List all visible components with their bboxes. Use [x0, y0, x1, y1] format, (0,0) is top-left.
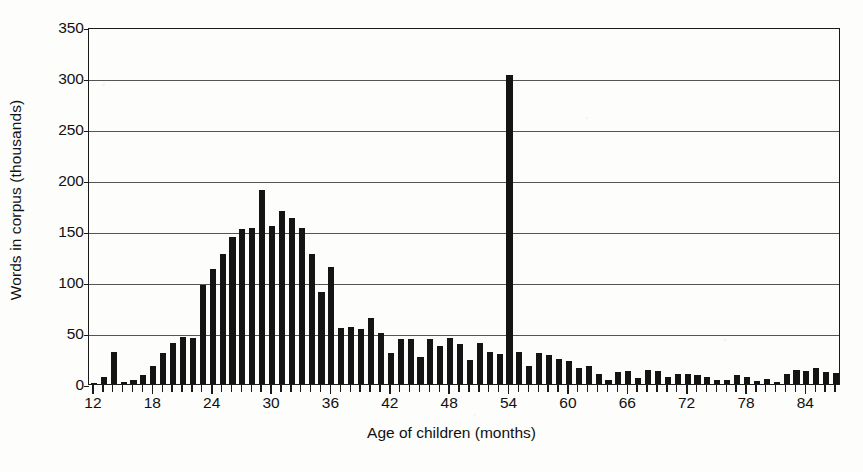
x-axis-tick-mark: [132, 385, 133, 392]
x-axis-tick-mark: [686, 385, 688, 394]
bar: [417, 357, 423, 384]
bar: [200, 285, 206, 384]
x-axis-tick-mark: [330, 385, 332, 394]
bar: [536, 353, 542, 384]
bar: [793, 370, 799, 384]
x-axis-tick-mark: [587, 385, 588, 392]
bar: [675, 374, 681, 384]
bar: [556, 359, 562, 385]
x-axis-tick-mark: [419, 385, 420, 392]
y-axis-tick-label: 250: [32, 122, 84, 138]
bar: [774, 382, 780, 384]
x-axis-tick-label: 54: [500, 394, 517, 412]
x-axis-tick-mark: [775, 385, 776, 392]
x-axis-tick-mark: [745, 385, 747, 394]
x-axis-tick-label: 66: [619, 394, 636, 412]
x-axis-tick-mark: [567, 385, 569, 394]
x-axis-tick-mark: [795, 385, 796, 392]
bar: [279, 211, 285, 384]
chart-figure: Words in corpus (thousands) 050100150200…: [0, 0, 863, 472]
plot-area: [88, 28, 840, 385]
bar: [91, 383, 97, 384]
x-axis-tick-mark: [448, 385, 450, 394]
bar: [368, 318, 374, 384]
bar: [803, 371, 809, 384]
x-axis-tick-marks: [88, 385, 840, 394]
x-axis-tick-mark: [468, 385, 469, 392]
bar: [833, 373, 839, 384]
x-axis-tick-mark: [379, 385, 380, 392]
x-axis-tick-mark: [231, 385, 232, 392]
x-axis-tick-mark: [824, 385, 825, 392]
bar: [150, 366, 156, 384]
x-axis-tick-mark: [696, 385, 697, 392]
bar: [358, 329, 364, 384]
x-axis-tick-mark: [458, 385, 459, 392]
bar: [605, 380, 611, 384]
bar: [566, 361, 572, 384]
x-axis-tick-mark: [726, 385, 727, 392]
bar: [655, 371, 661, 384]
bar: [318, 292, 324, 384]
bar: [140, 375, 146, 384]
bar: [437, 346, 443, 384]
bar: [111, 352, 117, 384]
bar: [487, 352, 493, 384]
bar: [249, 228, 255, 384]
x-axis-tick-mark: [765, 385, 766, 392]
bar: [239, 229, 245, 384]
x-axis-tick-mark: [834, 385, 835, 392]
bar: [704, 377, 710, 384]
x-axis-tick-mark: [528, 385, 529, 392]
x-axis-tick-mark: [488, 385, 489, 392]
bar: [586, 366, 592, 384]
y-axis-tick-label: 50: [32, 326, 84, 342]
x-axis-tick-mark: [221, 385, 222, 392]
y-axis-title-text: Words in corpus (thousands): [7, 100, 25, 301]
bar: [625, 371, 631, 384]
bar: [269, 226, 275, 384]
bar-series: [89, 29, 839, 384]
x-axis-tick-mark: [320, 385, 321, 392]
bar: [526, 366, 532, 384]
bar: [259, 190, 265, 384]
x-axis-tick-mark: [785, 385, 786, 392]
bar: [467, 360, 473, 384]
bar: [160, 353, 166, 384]
x-axis-tick-mark: [646, 385, 647, 392]
bar: [299, 228, 305, 384]
bar: [121, 382, 127, 384]
x-axis-tick-label: 48: [441, 394, 458, 412]
bar: [170, 343, 176, 384]
x-axis-tick-mark: [102, 385, 103, 392]
y-axis-tick-mark: [84, 284, 89, 285]
bar: [635, 378, 641, 384]
x-axis-title-text: Age of children (months): [367, 424, 536, 441]
bar: [309, 254, 315, 384]
y-axis-tick-mark: [84, 182, 89, 183]
bar: [388, 353, 394, 384]
bar: [447, 338, 453, 384]
bar: [645, 370, 651, 384]
bar: [408, 339, 414, 384]
x-axis-title: Age of children (months): [0, 424, 863, 442]
bar: [378, 333, 384, 384]
x-axis-tick-mark: [241, 385, 242, 392]
x-axis-tick-mark: [181, 385, 182, 392]
x-axis-tick-mark: [409, 385, 410, 392]
bar: [813, 368, 819, 384]
bar: [823, 372, 829, 384]
bar: [546, 355, 552, 384]
x-axis-tick-label: 78: [737, 394, 754, 412]
x-axis-tick-mark: [538, 385, 539, 392]
bar: [130, 380, 136, 384]
x-axis-tick-mark: [260, 385, 261, 392]
x-axis-tick-mark: [211, 385, 213, 394]
bar: [506, 75, 512, 384]
x-axis-tick-mark: [755, 385, 756, 392]
x-axis-tick-label: 24: [203, 394, 220, 412]
bar: [190, 338, 196, 384]
y-axis-tick-label: 350: [32, 20, 84, 36]
bar: [348, 327, 354, 384]
x-axis-tick-mark: [676, 385, 677, 392]
